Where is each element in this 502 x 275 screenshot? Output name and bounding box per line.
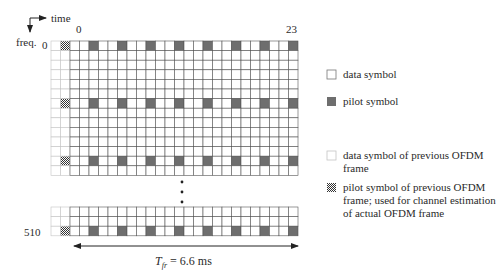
data-symbol-cell <box>137 147 147 157</box>
data-symbol-cell <box>108 226 118 236</box>
data-symbol-cell <box>251 79 261 89</box>
pilot-symbol-cell <box>118 156 128 166</box>
data-symbol-cell <box>70 226 80 236</box>
data-symbol-cell <box>184 207 194 217</box>
pilot-symbol-cell <box>175 99 185 109</box>
data-symbol-cell <box>194 137 204 147</box>
col-label-last: 23 <box>286 23 298 35</box>
data-symbol-cell <box>108 217 118 227</box>
data-symbol-cell <box>127 79 137 89</box>
data-symbol-cell <box>70 89 80 99</box>
prev-data-symbol-cell <box>61 51 71 61</box>
data-symbol-cell <box>80 70 90 80</box>
data-symbol-cell <box>175 166 185 176</box>
data-symbol-cell <box>232 207 242 217</box>
data-symbol-cell <box>279 137 289 147</box>
data-symbol-cell <box>222 207 232 217</box>
row-label-last: 510 <box>24 226 41 238</box>
data-symbol-cell <box>99 207 109 217</box>
data-symbol-cell <box>118 166 128 176</box>
data-symbol-cell <box>222 217 232 227</box>
data-symbol-cell <box>270 217 280 227</box>
data-symbol-cell <box>279 51 289 61</box>
pilot-symbol-cell <box>89 41 99 51</box>
data-symbol-cell <box>222 166 232 176</box>
data-symbol-cell <box>184 226 194 236</box>
data-symbol-cell <box>127 99 137 109</box>
data-symbol-cell <box>289 118 299 128</box>
legend-swatch-data <box>327 70 336 79</box>
data-symbol-cell <box>108 89 118 99</box>
data-symbol-cell <box>232 79 242 89</box>
data-symbol-cell <box>146 166 156 176</box>
data-symbol-cell <box>99 118 109 128</box>
data-symbol-cell <box>222 118 232 128</box>
data-symbol-cell <box>213 99 223 109</box>
prev-data-symbol-cell <box>51 166 61 176</box>
data-symbol-cell <box>260 51 270 61</box>
data-symbol-cell <box>213 147 223 157</box>
data-symbol-cell <box>89 207 99 217</box>
data-symbol-cell <box>89 137 99 147</box>
data-symbol-cell <box>89 166 99 176</box>
data-symbol-cell <box>137 127 147 137</box>
data-symbol-cell <box>146 89 156 99</box>
data-symbol-cell <box>127 166 137 176</box>
data-symbol-cell <box>184 127 194 137</box>
data-symbol-cell <box>108 156 118 166</box>
data-symbol-cell <box>175 127 185 137</box>
data-symbol-cell <box>175 70 185 80</box>
data-symbol-cell <box>289 147 299 157</box>
data-symbol-cell <box>184 70 194 80</box>
data-symbol-cell <box>156 51 166 61</box>
data-symbol-cell <box>241 137 251 147</box>
data-symbol-cell <box>118 207 128 217</box>
prev-pilot-symbol-cell <box>61 99 71 109</box>
data-symbol-cell <box>127 118 137 128</box>
data-symbol-cell <box>213 207 223 217</box>
legend-swatch-pilot <box>327 97 336 106</box>
data-symbol-cell <box>213 60 223 70</box>
prev-data-symbol-cell <box>51 99 61 109</box>
data-symbol-cell <box>279 217 289 227</box>
data-symbol-cell <box>251 226 261 236</box>
data-symbol-cell <box>184 118 194 128</box>
data-symbol-cell <box>89 60 99 70</box>
data-symbol-cell <box>70 70 80 80</box>
data-symbol-cell <box>213 51 223 61</box>
data-symbol-cell <box>156 127 166 137</box>
data-symbol-cell <box>146 127 156 137</box>
data-symbol-cell <box>70 108 80 118</box>
data-symbol-cell <box>70 79 80 89</box>
data-symbol-cell <box>194 166 204 176</box>
data-symbol-cell <box>165 108 175 118</box>
data-symbol-cell <box>184 60 194 70</box>
data-symbol-cell <box>165 207 175 217</box>
data-symbol-cell <box>289 108 299 118</box>
data-symbol-cell <box>118 51 128 61</box>
data-symbol-cell <box>213 156 223 166</box>
pilot-symbol-cell <box>146 156 156 166</box>
data-symbol-cell <box>184 99 194 109</box>
pilot-symbol-cell <box>175 226 185 236</box>
data-symbol-cell <box>108 51 118 61</box>
data-symbol-cell <box>70 156 80 166</box>
data-symbol-cell <box>165 127 175 137</box>
data-symbol-cell <box>289 217 299 227</box>
data-symbol-cell <box>175 79 185 89</box>
data-symbol-cell <box>137 51 147 61</box>
data-symbol-cell <box>213 41 223 51</box>
data-symbol-cell <box>80 127 90 137</box>
data-symbol-cell <box>203 137 213 147</box>
data-symbol-cell <box>194 217 204 227</box>
pilot-symbol-cell <box>146 41 156 51</box>
data-symbol-cell <box>213 89 223 99</box>
prev-data-symbol-cell <box>51 147 61 157</box>
data-symbol-cell <box>279 108 289 118</box>
data-symbol-cell <box>118 127 128 137</box>
data-symbol-cell <box>156 166 166 176</box>
data-symbol-cell <box>184 166 194 176</box>
data-symbol-cell <box>70 137 80 147</box>
data-symbol-cell <box>270 156 280 166</box>
data-symbol-cell <box>127 127 137 137</box>
